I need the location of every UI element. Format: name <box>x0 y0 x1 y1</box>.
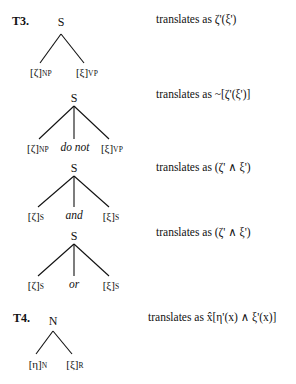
edge-t3d-left <box>38 244 74 276</box>
tree-leaf-zeta-np: [ζ]NP <box>30 66 52 78</box>
translation-rule: translates as x̂[η'(x) ∧ ξ'(x)] <box>148 310 276 324</box>
edge-t3d-right <box>74 244 109 276</box>
tree-leaf-word-and: and <box>65 209 82 221</box>
translation-rule: translates as ζ'(ξ') <box>156 13 236 25</box>
leaf-bracket: [ζ] <box>28 279 40 291</box>
leaf-category-subscript: VP <box>113 145 123 154</box>
tree-leaf-word-or: or <box>69 278 79 290</box>
edge-t3c-right <box>74 176 109 207</box>
edge-t3a-right <box>61 34 84 63</box>
tree-leaf-zeta-np: [ζ]NP <box>27 142 49 154</box>
leaf-category-subscript: S <box>115 282 119 291</box>
tree-root-node: S <box>58 15 65 30</box>
tree-root-node: S <box>71 91 78 106</box>
tree-leaf-eta-n: [η]N <box>29 358 48 370</box>
tree-root-node: N <box>49 314 58 329</box>
rule-label-t3: T3. <box>12 14 29 29</box>
leaf-bracket: [ξ] <box>66 358 78 370</box>
edge-t3b-left <box>39 106 74 139</box>
leaf-bracket: [ξ] <box>103 210 115 222</box>
tree-leaf-zeta-s: [ζ]S <box>28 279 44 291</box>
tree-leaf-xi-r: [ξ]R <box>66 358 83 370</box>
leaf-bracket: [ζ] <box>28 210 40 222</box>
edge-t3b-right <box>74 106 109 139</box>
leaf-bracket: [ξ] <box>103 279 115 291</box>
translation-rule: translates as (ζ' ∧ ξ') <box>156 225 251 239</box>
tree-edges <box>0 0 296 384</box>
translation-rule: translates as ~[ζ'(ξ')] <box>156 88 250 100</box>
rule-label-t4: T4. <box>13 311 30 326</box>
leaf-category-subscript: NP <box>42 69 52 78</box>
leaf-category-subscript: N <box>42 361 48 370</box>
tree-leaf-zeta-s: [ζ]S <box>28 210 44 222</box>
leaf-category-subscript: S <box>40 282 44 291</box>
edge-t3a-left <box>40 34 61 63</box>
edge-t4-right <box>53 331 72 354</box>
leaf-bracket: [ζ] <box>30 66 42 78</box>
edge-t4-left <box>36 331 53 354</box>
leaf-category-subscript: NP <box>39 145 49 154</box>
leaf-category-subscript: S <box>40 213 44 222</box>
tree-leaf-xi-s: [ξ]S <box>103 279 120 291</box>
leaf-category-subscript: R <box>79 361 84 370</box>
tree-root-node: S <box>71 229 78 244</box>
leaf-bracket: [η] <box>29 358 42 370</box>
edge-t3c-left <box>38 176 74 207</box>
leaf-category-subscript: S <box>115 213 119 222</box>
tree-leaf-xi-s: [ξ]S <box>103 210 120 222</box>
leaf-bracket: [ξ] <box>76 66 88 78</box>
translation-rule: translates as (ζ' ∧ ξ') <box>156 160 251 174</box>
leaf-bracket: [ξ] <box>101 142 113 154</box>
tree-root-node: S <box>71 161 78 176</box>
tree-leaf-xi-vp: [ξ]VP <box>101 142 123 154</box>
tree-leaf-xi-vp: [ξ]VP <box>76 66 98 78</box>
leaf-category-subscript: VP <box>88 69 98 78</box>
leaf-bracket: [ζ] <box>27 142 39 154</box>
tree-leaf-word-do-not: do not <box>60 141 89 153</box>
